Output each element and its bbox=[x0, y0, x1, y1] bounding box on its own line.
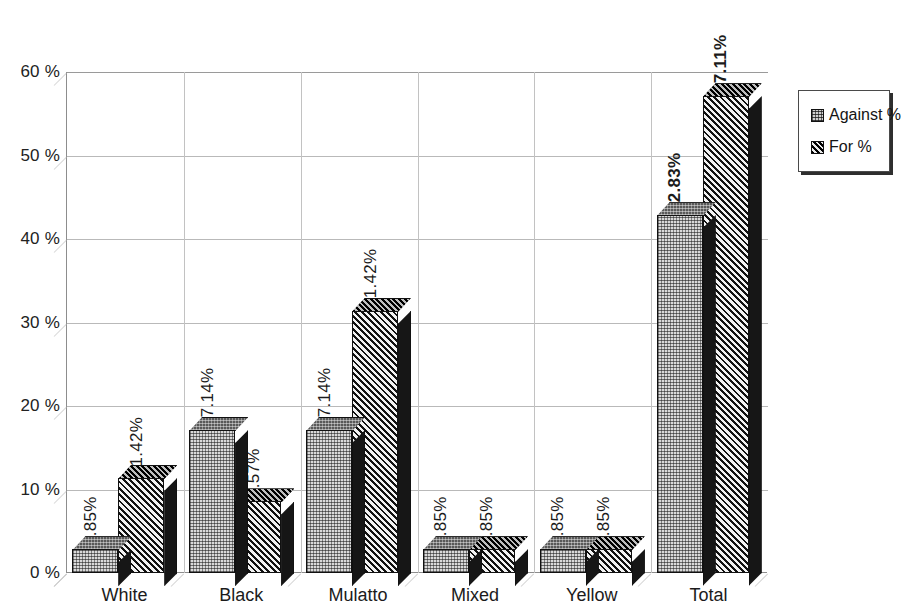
bar-front-face bbox=[306, 430, 352, 573]
bar-against bbox=[540, 549, 586, 573]
y-axis-tick-label: 50 % bbox=[4, 146, 60, 166]
y-axis-tick-label: 0 % bbox=[4, 563, 60, 583]
bar-side-face bbox=[749, 96, 762, 586]
bar-side-face bbox=[281, 501, 294, 586]
bar-front-face bbox=[72, 549, 118, 573]
bar-front-face bbox=[189, 430, 235, 573]
bar-against bbox=[657, 215, 703, 573]
gridline-vertical bbox=[534, 72, 535, 573]
legend-item-label: Against % bbox=[829, 106, 901, 124]
bar-side-face bbox=[164, 478, 177, 586]
gridline-vertical bbox=[418, 72, 419, 573]
bar-against bbox=[189, 430, 235, 573]
x-axis-category-label: White bbox=[66, 585, 183, 606]
chart-legend[interactable]: Against % For % bbox=[798, 90, 890, 172]
for-swatch-icon bbox=[811, 141, 824, 154]
bar-side-face bbox=[703, 215, 716, 586]
x-axis-category-label: Yellow bbox=[533, 585, 650, 606]
x-axis-category-label: Mixed bbox=[417, 585, 534, 606]
bar-side-face bbox=[235, 430, 248, 586]
legend-item-label: For % bbox=[829, 138, 872, 156]
x-axis-category-label: Black bbox=[183, 585, 300, 606]
bar-against bbox=[306, 430, 352, 573]
y-axis: 0 %10 %20 %30 %40 %50 %60 % bbox=[0, 0, 60, 611]
y-axis-tick-label: 30 % bbox=[4, 313, 60, 333]
legend-item-against[interactable]: Against % bbox=[811, 103, 879, 127]
bar-front-face bbox=[657, 215, 703, 573]
bar-against bbox=[423, 549, 469, 573]
bar-side-face bbox=[398, 311, 411, 586]
bar-front-face bbox=[423, 549, 469, 573]
gridline-vertical bbox=[651, 72, 652, 573]
y-axis-tick-label: 20 % bbox=[4, 396, 60, 416]
bar-front-face bbox=[540, 549, 586, 573]
gridline-vertical bbox=[184, 72, 185, 573]
against-swatch-icon bbox=[811, 109, 824, 122]
legend-item-for[interactable]: For % bbox=[811, 135, 879, 159]
x-axis-category-label: Total bbox=[650, 585, 767, 606]
y-axis-tick-label: 60 % bbox=[4, 62, 60, 82]
bar-side-face bbox=[352, 430, 365, 586]
x-axis-category-label: Mulatto bbox=[300, 585, 417, 606]
bar-against bbox=[72, 549, 118, 573]
y-axis-tick-label: 40 % bbox=[4, 229, 60, 249]
gridline-vertical bbox=[301, 72, 302, 573]
y-axis-tick-label: 10 % bbox=[4, 480, 60, 500]
